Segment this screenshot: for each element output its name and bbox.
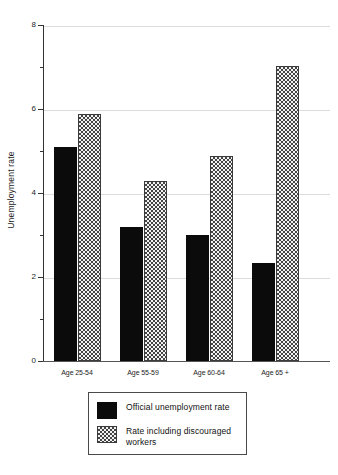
- gridline-8: [43, 26, 330, 27]
- x-tick-label-age-65-plus: Age 65 +: [240, 369, 310, 376]
- y-tick-2: [38, 277, 43, 278]
- bar-official-age-55-59: [120, 227, 143, 361]
- bar-official-age-65-plus: [252, 263, 275, 361]
- legend-label-official: Official unemployment rate: [126, 402, 230, 413]
- y-tick-label-2: 2: [18, 273, 36, 281]
- y-minor-tick-7: [40, 67, 43, 68]
- legend-entry-official: Official unemployment rate: [97, 402, 230, 419]
- bar-official-age-25-54: [54, 147, 77, 361]
- legend-entry-discouraged: Rate including discouraged workers: [97, 426, 231, 448]
- y-tick-label-6: 6: [18, 105, 36, 113]
- bar-official-age-60-64: [186, 235, 209, 361]
- bar-chart-figure: Unemployment rate 8 6 4 2 0 Age 25-54 Ag…: [0, 0, 338, 475]
- bar-discouraged-age-25-54: [78, 114, 101, 361]
- bar-discouraged-age-60-64: [210, 156, 233, 361]
- legend-swatch-official-solid: [97, 402, 117, 419]
- legend-label-discouraged-line2: workers: [126, 437, 231, 448]
- x-axis-line: [43, 361, 330, 362]
- y-minor-tick-1: [40, 319, 43, 320]
- y-tick-8: [38, 25, 43, 26]
- y-tick-label-4: 4: [18, 189, 36, 197]
- y-tick-4: [38, 193, 43, 194]
- y-minor-tick-5: [40, 151, 43, 152]
- legend-label-discouraged-wrap: Rate including discouraged workers: [117, 426, 231, 448]
- x-tick-label-age-55-59: Age 55-59: [108, 369, 178, 376]
- bar-discouraged-age-55-59: [144, 181, 167, 361]
- y-tick-label-0: 0: [18, 357, 36, 365]
- bar-discouraged-age-65-plus: [276, 66, 299, 361]
- x-tick-label-age-25-54: Age 25-54: [42, 369, 112, 376]
- y-tick-label-8: 8: [18, 21, 36, 29]
- y-axis-line: [43, 25, 44, 362]
- x-tick-label-age-60-64: Age 60-64: [174, 369, 244, 376]
- chart-legend: Official unemployment rate Rate includin…: [88, 392, 247, 455]
- y-tick-0: [38, 361, 43, 362]
- legend-label-discouraged-line1: Rate including discouraged: [126, 426, 231, 437]
- y-tick-6: [38, 109, 43, 110]
- legend-swatch-discouraged-hatched: [97, 426, 117, 443]
- y-minor-tick-3: [40, 235, 43, 236]
